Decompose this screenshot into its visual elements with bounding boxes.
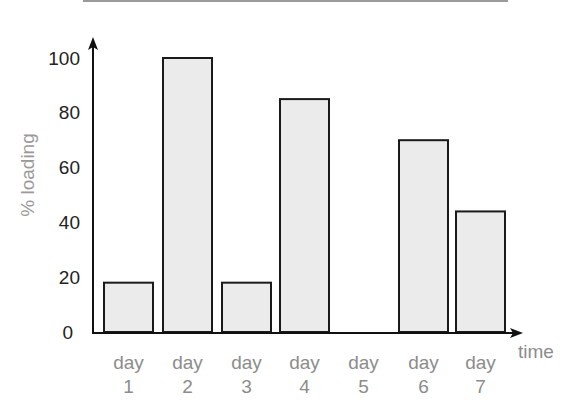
y-tick-80: 80 — [59, 102, 80, 123]
y-tick-60: 60 — [59, 157, 80, 178]
y-tick-40: 40 — [59, 212, 80, 233]
x-category-label-line2: 1 — [123, 376, 134, 397]
x-category-label-line1: day — [113, 352, 144, 373]
x-axis-label: time — [518, 341, 554, 362]
bar-day-1 — [104, 283, 153, 332]
y-tick-0: 0 — [62, 322, 73, 343]
y-tick-100: 100 — [48, 48, 80, 69]
bar-day-3 — [222, 283, 271, 332]
y-tick-20: 20 — [59, 267, 80, 288]
x-category-labels: day1day2day3day4day5day6day7 — [113, 352, 496, 397]
x-category-label-line2: 3 — [241, 376, 252, 397]
bar-day-2 — [163, 58, 212, 332]
x-category-label-line2: 5 — [358, 376, 369, 397]
x-category-label-line1: day — [172, 352, 203, 373]
x-category-label-line2: 4 — [299, 376, 310, 397]
bars-group — [104, 58, 505, 332]
x-category-label-line1: day — [408, 352, 439, 373]
bar-chart: % loading 0 20 40 60 80 100 time day1day… — [0, 0, 577, 411]
x-category-label-line2: 6 — [418, 376, 429, 397]
x-category-label-line2: 2 — [182, 376, 193, 397]
bar-day-4 — [280, 99, 329, 332]
bar-day-6 — [399, 140, 448, 332]
x-category-label-line1: day — [289, 352, 320, 373]
y-axis-label: % loading — [17, 133, 38, 216]
x-category-label-line1: day — [231, 352, 262, 373]
y-tick-labels: 0 20 40 60 80 100 — [48, 48, 80, 343]
x-category-label-line1: day — [465, 352, 496, 373]
x-category-label-line2: 7 — [475, 376, 486, 397]
x-category-label-line1: day — [348, 352, 379, 373]
bar-day-7 — [456, 211, 505, 332]
